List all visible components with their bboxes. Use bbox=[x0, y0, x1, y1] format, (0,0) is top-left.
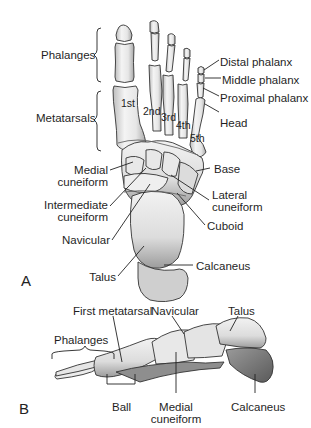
label-calcaneus: Calcaneus bbox=[196, 260, 250, 272]
metatarsal-number-2nd: 2nd bbox=[143, 105, 161, 117]
label-middle-phalanx: Middle phalanx bbox=[222, 74, 299, 86]
label-medial-cuneiform-b-line1: Medial bbox=[150, 401, 202, 413]
label-talus-a: Talus bbox=[80, 271, 116, 283]
label-navicular-b: Navicular bbox=[151, 305, 199, 317]
label-intermediate-cuneiform: Intermediate cuneiform bbox=[40, 199, 108, 223]
label-ball: Ball bbox=[112, 401, 131, 413]
label-medial-cuneiform-line2: cuneiform bbox=[56, 176, 108, 188]
label-intermediate-cuneiform-line1: Intermediate bbox=[40, 199, 108, 211]
label-medial-cuneiform-b-line2: cuneiform bbox=[150, 413, 202, 425]
label-first-metatarsal: First metatarsal bbox=[73, 305, 152, 317]
panel-letter-b: B bbox=[19, 400, 29, 417]
label-proximal-phalanx: Proximal phalanx bbox=[220, 92, 308, 104]
label-medial-cuneiform: Medial cuneiform bbox=[56, 164, 108, 188]
panel-letter-a: A bbox=[21, 272, 31, 289]
label-intermediate-cuneiform-line2: cuneiform bbox=[40, 211, 108, 223]
label-cuboid: Cuboid bbox=[207, 220, 243, 232]
metatarsal-number-4th: 4th bbox=[176, 119, 191, 131]
label-phalanges: Phalanges bbox=[41, 49, 95, 61]
label-lateral-cuneiform: Lateral cuneiform bbox=[212, 189, 263, 213]
label-talus-b: Talus bbox=[228, 305, 255, 317]
label-phalanges-b: Phalanges bbox=[54, 334, 108, 346]
panel-a-bones bbox=[113, 21, 206, 302]
label-lateral-cuneiform-line2: cuneiform bbox=[212, 201, 263, 213]
metatarsal-number-1st: 1st bbox=[121, 97, 135, 109]
label-distal-phalanx: Distal phalanx bbox=[220, 56, 292, 68]
metatarsal-number-3rd: 3rd bbox=[161, 111, 176, 123]
label-head: Head bbox=[220, 117, 248, 129]
label-calcaneus-b: Calcaneus bbox=[231, 401, 285, 413]
label-metatarsals: Metatarsals bbox=[36, 112, 95, 124]
label-lateral-cuneiform-line1: Lateral bbox=[212, 189, 263, 201]
label-medial-cuneiform-b: Medial cuneiform bbox=[150, 401, 202, 425]
label-medial-cuneiform-line1: Medial bbox=[56, 164, 108, 176]
label-base: Base bbox=[214, 163, 240, 175]
label-navicular-a: Navicular bbox=[50, 234, 110, 246]
metatarsal-number-5th: 5th bbox=[190, 132, 205, 144]
panel-b-bones bbox=[55, 318, 273, 383]
foot-skeleton-figure: Phalanges Metatarsals 1st 2nd 3rd 4th 5t… bbox=[0, 0, 311, 428]
